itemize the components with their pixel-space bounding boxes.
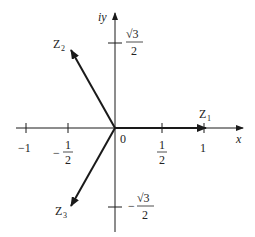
origin-label: 0 <box>120 132 126 146</box>
svg-text:1: 1 <box>207 114 211 123</box>
svg-text:Z: Z <box>53 37 60 51</box>
svg-text:2: 2 <box>159 153 165 167</box>
svg-text:2: 2 <box>61 44 65 53</box>
complex-plane-diagram: x iy 0 −1 − 1 2 1 2 1 √3 2 − √3 2 Z 1 Z … <box>0 0 255 237</box>
x-tick-label-neg-half: − 1 2 <box>53 138 73 167</box>
svg-text:−: − <box>53 146 60 160</box>
svg-text:2: 2 <box>65 153 71 167</box>
svg-text:1: 1 <box>159 138 165 152</box>
svg-text:−: − <box>128 199 135 213</box>
x-tick-label-1: 1 <box>200 141 206 155</box>
vector-z3 <box>71 128 115 206</box>
y-axis-label: iy <box>98 10 107 24</box>
y-tick-label-sqrt3-over-2: √3 2 <box>126 27 143 58</box>
svg-text:2: 2 <box>142 208 148 222</box>
x-axis-label: x <box>235 132 242 146</box>
svg-text:Z: Z <box>199 107 206 121</box>
vector-label-z1: Z 1 <box>199 107 211 123</box>
svg-text:Z: Z <box>55 204 62 218</box>
vector-label-z2: Z 2 <box>53 37 65 53</box>
svg-text:3: 3 <box>63 211 67 220</box>
svg-text:2: 2 <box>131 44 137 58</box>
vector-label-z3: Z 3 <box>55 204 67 220</box>
x-tick-label-neg1: −1 <box>18 141 31 155</box>
svg-text:√3: √3 <box>126 27 139 41</box>
svg-text:1: 1 <box>65 138 71 152</box>
x-tick-label-half: 1 2 <box>157 138 167 167</box>
svg-text:√3: √3 <box>137 191 150 205</box>
vector-z2 <box>71 50 115 128</box>
y-tick-label-neg-sqrt3-over-2: − √3 2 <box>128 191 154 222</box>
